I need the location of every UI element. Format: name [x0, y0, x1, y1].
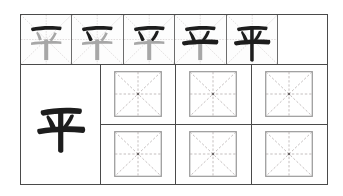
stroke-glyph-1: [21, 15, 71, 64]
practice-grid: [101, 65, 327, 184]
stroke-step-cell-5: [227, 15, 278, 64]
stroke-step-cell-2: [72, 15, 123, 64]
mi-zi-ge-box-icon: [265, 71, 313, 117]
model-character-cell: [21, 65, 101, 184]
stroke-glyph-3: [124, 15, 174, 64]
practice-cell-r1c1[interactable]: [101, 65, 176, 125]
stroke-step-cell-3: [124, 15, 175, 64]
mi-zi-ge-box-icon: [114, 71, 162, 117]
practice-cell-r2c3[interactable]: [252, 125, 327, 185]
practice-cell-r2c1[interactable]: [101, 125, 176, 185]
stroke-glyph-2: [72, 15, 122, 64]
mi-zi-ge-box-icon: [189, 131, 237, 177]
mi-zi-ge-box-icon: [189, 71, 237, 117]
stroke-step-cell-4: [175, 15, 226, 64]
stroke-order-row: [21, 15, 327, 65]
mi-zi-ge-box-icon: [265, 131, 313, 177]
stroke-glyph-4: [175, 15, 225, 64]
model-character-glyph: [32, 96, 90, 154]
stroke-glyph-5: [227, 15, 277, 64]
mi-zi-ge-box-icon: [114, 131, 162, 177]
practice-cell-r1c3[interactable]: [252, 65, 327, 125]
stroke-order-cells: [21, 15, 278, 64]
practice-cell-r1c2[interactable]: [176, 65, 251, 125]
practice-cell-r2c2[interactable]: [176, 125, 251, 185]
stroke-step-cell-1: [21, 15, 72, 64]
practice-section: [21, 65, 327, 184]
worksheet-sheet: [20, 14, 328, 185]
stroke-order-blank-cell: [278, 15, 327, 64]
